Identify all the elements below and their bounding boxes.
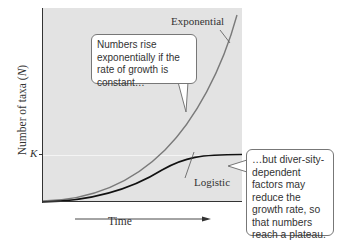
logistic-callout: …but diver-sity-dependent factors may re…	[246, 149, 334, 236]
exponential-callout: Numbers rise exponentially if the rate o…	[91, 34, 197, 84]
logistic-leader	[185, 152, 194, 178]
exponential-label: Exponential	[171, 15, 224, 27]
x-axis	[42, 201, 242, 202]
logistic-label: Logistic	[194, 176, 230, 188]
x-axis-label: Time	[108, 215, 132, 227]
bottom-callout-tail	[228, 160, 247, 172]
exponential-leader	[220, 30, 230, 43]
k-tick-label: K	[30, 147, 37, 159]
y-axis-label: Number of taxa (N)	[16, 50, 28, 170]
time-arrowhead	[202, 217, 211, 222]
top-callout-tail	[178, 82, 188, 112]
k-tick	[39, 154, 43, 155]
y-axis	[42, 8, 43, 203]
